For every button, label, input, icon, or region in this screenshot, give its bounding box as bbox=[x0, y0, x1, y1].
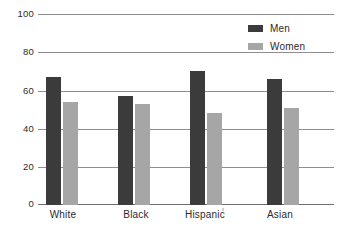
legend-label-women: Women bbox=[270, 41, 305, 52]
ytick-label-60: 60 bbox=[0, 86, 34, 96]
ytick-label-80: 80 bbox=[0, 47, 34, 57]
women-swatch-icon bbox=[248, 43, 263, 50]
bar-women-black bbox=[135, 104, 150, 205]
bar-men-hispanic bbox=[190, 71, 205, 205]
bar-men-black bbox=[118, 96, 133, 205]
ytick-label-100: 100 bbox=[0, 9, 34, 19]
legend-item-women: Women bbox=[248, 40, 305, 53]
bar-chart: 100 80 60 40 20 0 White Black Hispanic A… bbox=[0, 0, 342, 230]
ytick-label-40: 40 bbox=[0, 124, 34, 134]
bar-men-asian bbox=[267, 79, 282, 205]
men-swatch-icon bbox=[248, 25, 263, 32]
chart-legend: Men Women bbox=[248, 22, 305, 58]
ytick-label-0: 0 bbox=[0, 199, 34, 209]
bar-women-asian bbox=[284, 108, 299, 205]
xtick-label-white: White bbox=[38, 209, 88, 221]
ytick-label-20: 20 bbox=[0, 162, 34, 172]
xtick-label-asian: Asian bbox=[255, 209, 305, 221]
bar-men-white bbox=[46, 77, 61, 205]
xtick-label-black: Black bbox=[111, 209, 161, 221]
xtick-label-hispanic: Hispanic bbox=[177, 209, 233, 221]
legend-item-men: Men bbox=[248, 22, 305, 35]
gridline-100 bbox=[38, 14, 334, 15]
bar-women-white bbox=[63, 102, 78, 205]
artifact-speck bbox=[222, 208, 224, 211]
gridline-60 bbox=[38, 91, 334, 92]
bar-women-hispanic bbox=[207, 113, 222, 205]
legend-label-men: Men bbox=[270, 23, 290, 34]
